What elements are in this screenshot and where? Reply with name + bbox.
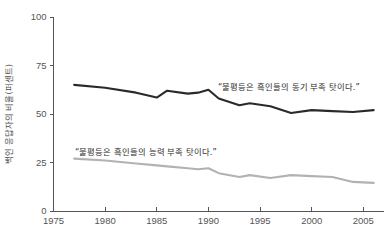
axis-lines xyxy=(54,17,385,212)
y-axis-ticks: 0255075100 xyxy=(31,11,54,216)
y-axis-title-text: 백인 응답자의 비율(퍼센트) xyxy=(4,64,14,164)
x-tick-label: 2000 xyxy=(301,215,322,226)
y-tick-label: 25 xyxy=(36,157,47,168)
series-annotation-1: “불평등은 흑인들의 능력 부족 탓이다.” xyxy=(75,147,217,157)
line-chart: 백인 응답자의 비율(퍼센트) 0255075100 1975198019851… xyxy=(0,0,391,248)
x-tick-label: 1995 xyxy=(249,215,270,226)
x-tick-label: 1990 xyxy=(198,215,219,226)
y-tick-label: 75 xyxy=(36,60,47,71)
x-tick-label: 1980 xyxy=(95,215,116,226)
data-series-group xyxy=(74,85,374,183)
chart-container: 백인 응답자의 비율(퍼센트) 0255075100 1975198019851… xyxy=(0,0,391,248)
series-annotation-0: “불평등은 흑인들의 동기 부족 탓이다.” xyxy=(218,82,360,92)
y-tick-label: 50 xyxy=(36,108,47,119)
series-line-1 xyxy=(74,159,374,183)
y-tick-label: 100 xyxy=(31,11,47,22)
x-tick-label: 2005 xyxy=(353,215,374,226)
annotations-group: “불평등은 흑인들의 동기 부족 탓이다.”“불평등은 흑인들의 능력 부족 탓… xyxy=(75,82,360,157)
x-axis-ticks: 1975198019851990199520002005 xyxy=(43,207,374,226)
y-axis-title: 백인 응답자의 비율(퍼센트) xyxy=(4,64,14,164)
x-tick-label: 1985 xyxy=(146,215,167,226)
x-tick-label: 1975 xyxy=(43,215,64,226)
